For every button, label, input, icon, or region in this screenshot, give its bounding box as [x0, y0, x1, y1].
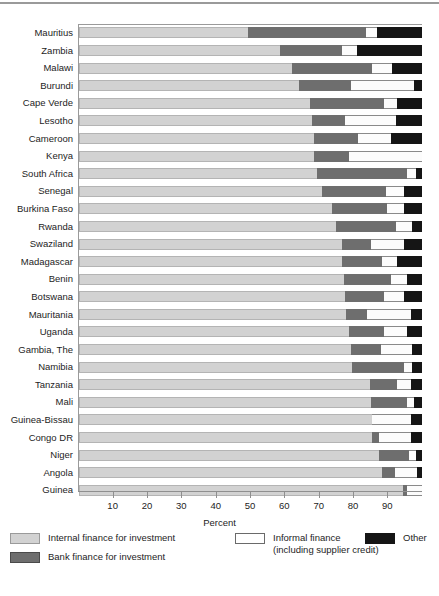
category-label: Cape Verde	[0, 95, 79, 110]
category-label: Botswana	[0, 289, 79, 304]
stacked-bar-chart: MauritiusZambiaMalawiBurundiCape VerdeLe…	[0, 14, 439, 514]
bar-segment-informal	[351, 80, 414, 91]
bar-segment-bank	[370, 379, 397, 390]
bar-segment-bank	[372, 432, 379, 443]
category-label: Guinea	[0, 482, 79, 497]
bar-row: Niger	[79, 447, 422, 465]
bar-segment-informal	[384, 291, 404, 302]
bar-row: Madagascar	[79, 254, 422, 272]
stacked-bar	[79, 80, 422, 91]
stacked-bar	[79, 221, 422, 232]
bar-segment-other	[396, 115, 422, 126]
bar-segment-informal	[382, 256, 397, 267]
stacked-bar	[79, 133, 422, 144]
bar-segment-other	[407, 326, 422, 337]
bar-segment-informal	[391, 274, 407, 285]
bar-segment-bank	[346, 309, 367, 320]
stacked-bar	[79, 326, 422, 337]
x-tick-label: 80	[338, 500, 368, 511]
bar-segment-informal	[349, 151, 422, 162]
bar-segment-bank	[317, 168, 407, 179]
bar-row: Cape Verde	[79, 95, 422, 113]
bar-segment-internal	[79, 274, 344, 285]
bar-segment-other	[357, 45, 422, 56]
bar-segment-informal	[397, 379, 411, 390]
bar-segment-other	[411, 414, 422, 425]
bar-segment-informal	[342, 45, 357, 56]
bar-row: Burundi	[79, 78, 422, 96]
bar-segment-bank	[342, 239, 371, 250]
bar-segment-other	[411, 432, 422, 443]
bar-segment-internal	[79, 414, 372, 425]
bar-segment-other	[412, 362, 422, 373]
category-label: Kenya	[0, 148, 79, 163]
x-axis-title: Percent	[0, 517, 439, 528]
bar-segment-bank	[310, 98, 384, 109]
bar-row: Benin	[79, 271, 422, 289]
top-divider-rule	[0, 2, 439, 4]
stacked-bar	[79, 27, 422, 38]
bar-segment-other	[404, 239, 422, 250]
category-label: Burkina Faso	[0, 201, 79, 216]
bar-segment-internal	[79, 203, 332, 214]
stacked-bar	[79, 414, 422, 425]
legend-item: Bank finance for investment	[10, 551, 175, 563]
legend-swatch-internal	[10, 533, 40, 544]
legend-swatch-bank	[10, 552, 40, 563]
bar-segment-informal	[358, 133, 391, 144]
bar-segment-other	[397, 256, 422, 267]
legend-column: Internal finance for investmentBank fina…	[10, 532, 175, 570]
bar-segment-bank	[322, 186, 386, 197]
bar-row: Mauritius	[79, 25, 422, 43]
category-label: Madagascar	[0, 254, 79, 269]
category-label: Angola	[0, 465, 79, 480]
bar-segment-informal	[371, 239, 404, 250]
bar-segment-informal	[384, 98, 397, 109]
bar-segment-internal	[79, 45, 280, 56]
bar-segment-other	[414, 80, 422, 91]
bar-segment-bank	[379, 450, 409, 461]
category-label: Namibia	[0, 359, 79, 374]
bar-segment-internal	[79, 309, 346, 320]
bar-row: Guinea-Bissau	[79, 412, 422, 430]
bar-segment-internal	[79, 63, 292, 74]
bar-segment-bank	[314, 133, 358, 144]
bar-segment-informal	[379, 432, 411, 443]
bar-row: Burkina Faso	[79, 201, 422, 219]
bar-row: Rwanda	[79, 219, 422, 237]
x-tick-label: 60	[269, 500, 299, 511]
category-label: Guinea-Bissau	[0, 412, 79, 427]
category-label: Gambia, The	[0, 342, 79, 357]
category-label: Mauritania	[0, 307, 79, 322]
stacked-bar	[79, 256, 422, 267]
plot-area: MauritiusZambiaMalawiBurundiCape VerdeLe…	[78, 24, 422, 491]
category-label: Lesotho	[0, 113, 79, 128]
bar-segment-informal	[366, 27, 377, 38]
bar-segment-internal	[79, 151, 314, 162]
category-label: Mali	[0, 394, 79, 409]
bar-segment-other	[411, 309, 422, 320]
category-label: Congo DR	[0, 430, 79, 445]
stacked-bar	[79, 291, 422, 302]
category-label: Zambia	[0, 43, 79, 58]
legend-item: Informal finance(including supplier cred…	[235, 532, 379, 556]
bar-segment-other	[397, 98, 422, 109]
x-tick	[147, 491, 148, 498]
bar-segment-bank	[349, 326, 384, 337]
legend-label: Internal finance for investment	[48, 532, 175, 544]
bar-row: Namibia	[79, 359, 422, 377]
x-tick-label: 40	[201, 500, 231, 511]
bar-segment-other	[417, 467, 422, 478]
bar-row: Cameroon	[79, 131, 422, 149]
category-label: Rwanda	[0, 219, 79, 234]
bar-row: Senegal	[79, 183, 422, 201]
bar-row: Zambia	[79, 43, 422, 61]
bar-segment-bank	[344, 274, 391, 285]
bar-row: Angola	[79, 465, 422, 483]
bar-row: South Africa	[79, 166, 422, 184]
bar-segment-other	[392, 63, 422, 74]
bar-segment-bank	[312, 115, 345, 126]
legend-column: Informal finance(including supplier cred…	[235, 532, 379, 563]
bar-segment-informal	[372, 63, 392, 74]
legend-swatch-informal	[235, 533, 265, 544]
